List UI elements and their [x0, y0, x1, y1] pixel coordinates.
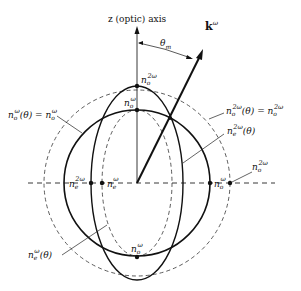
index-surface-diagram: z (optic) axis kω θm no2ω noω noω(θ) = n…	[0, 0, 301, 291]
point-ne-w	[100, 181, 104, 185]
k-vector-arrowhead	[196, 49, 203, 60]
point-no-w-right	[208, 181, 212, 185]
point-ne-2w	[89, 181, 93, 185]
label-no-2w-right: no2ω	[252, 159, 269, 173]
leader-ne-2w-theta	[183, 134, 224, 163]
point-no-2w-top	[135, 84, 139, 88]
label-no-2w-circle: no2ω(θ) = no2ω	[226, 103, 284, 117]
theta-arc-arrow-left	[138, 41, 143, 45]
theta-arc-arrow-right	[186, 55, 193, 59]
label-no-w-top: noω	[124, 95, 136, 109]
optic-axis-label: z (optic) axis	[108, 14, 167, 24]
point-no-2w-right	[228, 181, 232, 185]
label-ne-2w-theta: ne2ω(θ)	[227, 123, 256, 137]
leader-no-2w-circle	[209, 113, 224, 119]
label-no-w-right: noω	[214, 175, 226, 190]
optic-axis-arrowhead	[135, 26, 140, 34]
label-ne-w: neω	[107, 175, 119, 190]
point-no-w-bottom	[135, 255, 139, 259]
label-no-2w-top: no2ω	[141, 72, 158, 86]
point-intersection	[168, 116, 172, 120]
k-vector-label: kω	[205, 19, 219, 33]
label-no-w-bottom: noω	[131, 241, 143, 255]
label-no-w-circle: noω(θ) = noω	[8, 107, 58, 121]
leader-no-2w-right	[232, 172, 252, 182]
label-ne-w-theta: neω(θ)	[28, 247, 53, 261]
point-no-w-top	[135, 108, 139, 112]
leader-no-w-circle	[57, 116, 82, 133]
label-ne-2w: ne2ω	[69, 175, 85, 190]
